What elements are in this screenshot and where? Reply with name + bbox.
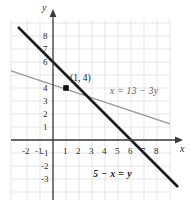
x-tick-neg2: -2 [22,147,30,156]
x-tick-5: 5 [115,147,120,156]
y-tick-3: 3 [43,97,48,106]
x-tick-8: 8 [154,147,159,156]
intersection-marker [63,85,69,91]
y-tick-neg2: -2 [41,162,49,171]
y-tick-7: 7 [43,45,48,54]
x-tick-4: 4 [102,147,107,156]
y-tick-neg3: -3 [41,175,49,184]
y-tick-4: 4 [43,84,48,93]
grid-lines [11,20,170,200]
graph-figure: y x 8 7 6 4 3 2 1 -1 -2 -3 -2 -1 1 2 3 4… [0,0,193,212]
intersection-point-label: (1, 4) [70,73,91,83]
y-tick-2: 2 [43,110,48,119]
y-tick-6: 6 [43,58,48,67]
y-tick-1: 1 [43,123,48,132]
x-tick-neg1: -1 [35,147,43,156]
x-tick-6: 6 [128,147,133,156]
gray-line-equation-label: x = 13 − 3y [110,86,158,96]
dark-line-equation-label: 5 − x = y [93,168,132,179]
coordinate-plane [0,0,193,212]
x-tick-3: 3 [89,147,94,156]
x-axis-label: x [180,143,184,154]
x-tick-7: 7 [141,147,146,156]
y-axis-label: y [42,2,46,13]
y-tick-8: 8 [43,32,48,41]
x-tick-1: 1 [63,147,68,156]
x-tick-2: 2 [76,147,81,156]
